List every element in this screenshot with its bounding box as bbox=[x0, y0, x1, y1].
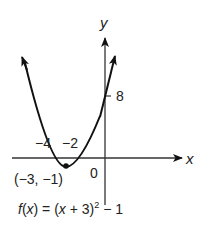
formula-eq: ) = ( bbox=[34, 201, 59, 217]
parabola-figure: x y 8 −4 −2 (−3, −1) 0 f(x) = (x + 3)2 −… bbox=[0, 0, 209, 228]
formula-tail: − 1 bbox=[99, 201, 123, 217]
origin-label: 0 bbox=[90, 165, 98, 181]
vertex-point bbox=[63, 163, 69, 169]
formula-plus: + 3) bbox=[66, 201, 94, 217]
x-axis-label: x bbox=[185, 150, 194, 167]
graph-canvas: x y 8 −4 −2 (−3, −1) 0 bbox=[0, 0, 209, 228]
y-tick-label-8: 8 bbox=[116, 88, 124, 104]
formula-x2: x bbox=[59, 201, 66, 217]
right-arm-arrow bbox=[100, 56, 115, 117]
formula-f: f bbox=[18, 201, 22, 217]
vertex-label: (−3, −1) bbox=[14, 171, 63, 187]
x-tick-label-neg2: −2 bbox=[62, 135, 78, 151]
y-axis-label: y bbox=[99, 14, 109, 31]
x-tick-label-neg4: −4 bbox=[35, 135, 51, 151]
formula-x: x bbox=[27, 201, 34, 217]
left-arm-arrow bbox=[22, 57, 27, 70]
parabola-curve bbox=[25, 63, 100, 167]
function-formula: f(x) = (x + 3)2 − 1 bbox=[18, 200, 123, 217]
